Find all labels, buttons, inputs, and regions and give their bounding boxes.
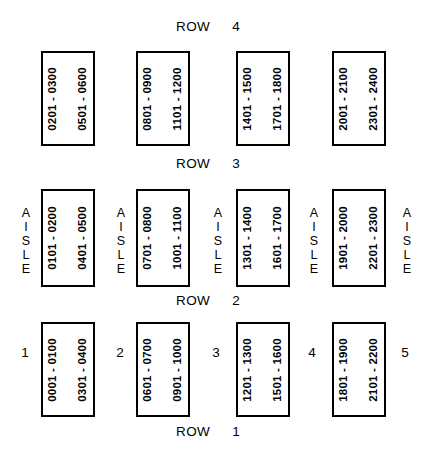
aisle-letter: S	[403, 234, 411, 248]
aisle-number-3: 3	[207, 345, 225, 360]
aisle-letter: L	[311, 248, 318, 262]
aisle-label-3: A I S L E	[211, 206, 225, 276]
aisle-label-2: A I S L E	[114, 206, 128, 276]
aisle-letter: L	[404, 248, 411, 262]
bin-range-label: 1801 - 1900	[338, 338, 350, 402]
bin-range-label: 1401 - 1500	[242, 67, 254, 131]
bin-range-label: 0201 - 0300	[47, 67, 59, 131]
aisle-letter: E	[310, 262, 318, 276]
aisle-letter: S	[117, 234, 125, 248]
row-caption-4: ROW 4	[176, 19, 240, 34]
aisle-letter: L	[215, 248, 222, 262]
aisle-letter: E	[117, 262, 125, 276]
bin-range-label: 1001 - 1100	[172, 207, 184, 270]
aisle-letter: I	[119, 220, 122, 234]
aisle-label-5: A I S L E	[400, 206, 414, 276]
rack-box-inner: 0601 - 0700 0901 - 1000	[138, 324, 188, 415]
row-caption-4-number: 4	[232, 19, 240, 34]
rack-box[interactable]: 0101 - 0200 0401 - 0500	[41, 189, 95, 287]
aisle-letter: A	[403, 206, 411, 220]
aisle-letter: A	[214, 206, 222, 220]
rack-box-inner: 1901 - 2000 2201 - 2300	[334, 191, 384, 285]
bin-range-label: 2201 - 2300	[368, 206, 380, 270]
warehouse-layout-diagram: ROW 4 0201 - 0300 0501 - 0600 0801 - 090…	[0, 0, 431, 455]
rack-box-inner: 0801 - 0900 1101 - 1200	[138, 53, 188, 144]
aisle-letter: S	[310, 234, 318, 248]
aisle-number-2: 2	[111, 345, 129, 360]
row-caption-3-number: 3	[232, 156, 240, 171]
aisle-letter: I	[405, 220, 408, 234]
bin-range-label: 0501 - 0600	[77, 67, 89, 131]
rack-box-inner: 1401 - 1500 1701 - 1800	[238, 53, 288, 144]
rack-box-inner: 1201 - 1300 1501 - 1600	[238, 324, 288, 415]
bin-range-label: 0901 - 1000	[172, 338, 184, 402]
aisle-letter: A	[310, 206, 318, 220]
rack-box-inner: 2001 - 2100 2301 - 2400	[334, 53, 384, 144]
bin-range-label: 2001 - 2100	[338, 67, 350, 131]
rack-box[interactable]: 1901 - 2000 2201 - 2300	[332, 189, 386, 287]
bin-range-label: 2301 - 2400	[368, 67, 380, 131]
aisle-letter: A	[117, 206, 125, 220]
rack-box-inner: 0001 - 0100 0301 - 0400	[43, 324, 93, 415]
aisle-number-5: 5	[396, 345, 414, 360]
bin-range-label: 1301 - 1400	[242, 206, 254, 270]
rack-box[interactable]: 2001 - 2100 2301 - 2400	[332, 51, 386, 146]
rack-box[interactable]: 1401 - 1500 1701 - 1800	[236, 51, 290, 146]
row-caption-4-label: ROW	[176, 19, 210, 34]
rack-box-inner: 0101 - 0200 0401 - 0500	[43, 191, 93, 285]
aisle-letter: I	[216, 220, 219, 234]
aisle-number-4: 4	[303, 345, 321, 360]
aisle-letter: I	[24, 220, 27, 234]
rack-box[interactable]: 0801 - 0900 1101 - 1200	[136, 51, 190, 146]
bin-range-label: 0001 - 0100	[47, 338, 59, 402]
rack-box[interactable]: 1301 - 1400 1601 - 1700	[236, 189, 290, 287]
rack-box-inner: 0701 - 0800 1001 - 1100	[138, 191, 188, 285]
bin-range-label: 0101 - 0200	[47, 206, 59, 270]
aisle-letter: L	[118, 248, 125, 262]
row-caption-1-label: ROW	[176, 424, 210, 439]
row-caption-2: ROW 2	[176, 293, 240, 308]
bin-range-label: 2101 - 2200	[368, 338, 380, 402]
bin-range-label: 0401 - 0500	[77, 206, 89, 270]
aisle-letter: E	[403, 262, 411, 276]
bin-range-label: 1601 - 1700	[272, 206, 284, 270]
bin-range-label: 0801 - 0900	[142, 67, 154, 131]
rack-box[interactable]: 0601 - 0700 0901 - 1000	[136, 322, 190, 417]
row-caption-1: ROW 1	[176, 424, 240, 439]
aisle-number-1: 1	[16, 345, 34, 360]
bin-range-label: 1701 - 1800	[272, 67, 284, 131]
aisle-letter: S	[214, 234, 222, 248]
rack-box[interactable]: 1201 - 1300 1501 - 1600	[236, 322, 290, 417]
aisle-letter: S	[22, 234, 30, 248]
aisle-letter: E	[22, 262, 30, 276]
bin-range-label: 1501 - 1600	[272, 338, 284, 402]
row-caption-3-label: ROW	[176, 156, 210, 171]
rack-box-inner: 1301 - 1400 1601 - 1700	[238, 191, 288, 285]
bin-range-label: 0701 - 0800	[142, 206, 154, 270]
aisle-letter: I	[312, 220, 315, 234]
aisle-letter: E	[214, 262, 222, 276]
aisle-letter: A	[22, 206, 30, 220]
rack-box[interactable]: 1801 - 1900 2101 - 2200	[332, 322, 386, 417]
aisle-letter: L	[23, 248, 30, 262]
bin-range-label: 1901 - 2000	[338, 206, 350, 270]
bin-range-label: 1201 - 1300	[242, 338, 254, 402]
rack-box-inner: 0201 - 0300 0501 - 0600	[43, 53, 93, 144]
rack-box-inner: 1801 - 1900 2101 - 2200	[334, 324, 384, 415]
rack-box[interactable]: 0001 - 0100 0301 - 0400	[41, 322, 95, 417]
row-caption-1-number: 1	[232, 424, 240, 439]
aisle-label-1: A I S L E	[19, 206, 33, 276]
row-caption-3: ROW 3	[176, 156, 240, 171]
row-caption-2-number: 2	[232, 293, 240, 308]
rack-box[interactable]: 0701 - 0800 1001 - 1100	[136, 189, 190, 287]
aisle-label-4: A I S L E	[307, 206, 321, 276]
bin-range-label: 0601 - 0700	[142, 338, 154, 402]
bin-range-label: 0301 - 0400	[77, 338, 89, 402]
rack-box[interactable]: 0201 - 0300 0501 - 0600	[41, 51, 95, 146]
row-caption-2-label: ROW	[176, 293, 210, 308]
bin-range-label: 1101 - 1200	[172, 67, 184, 130]
